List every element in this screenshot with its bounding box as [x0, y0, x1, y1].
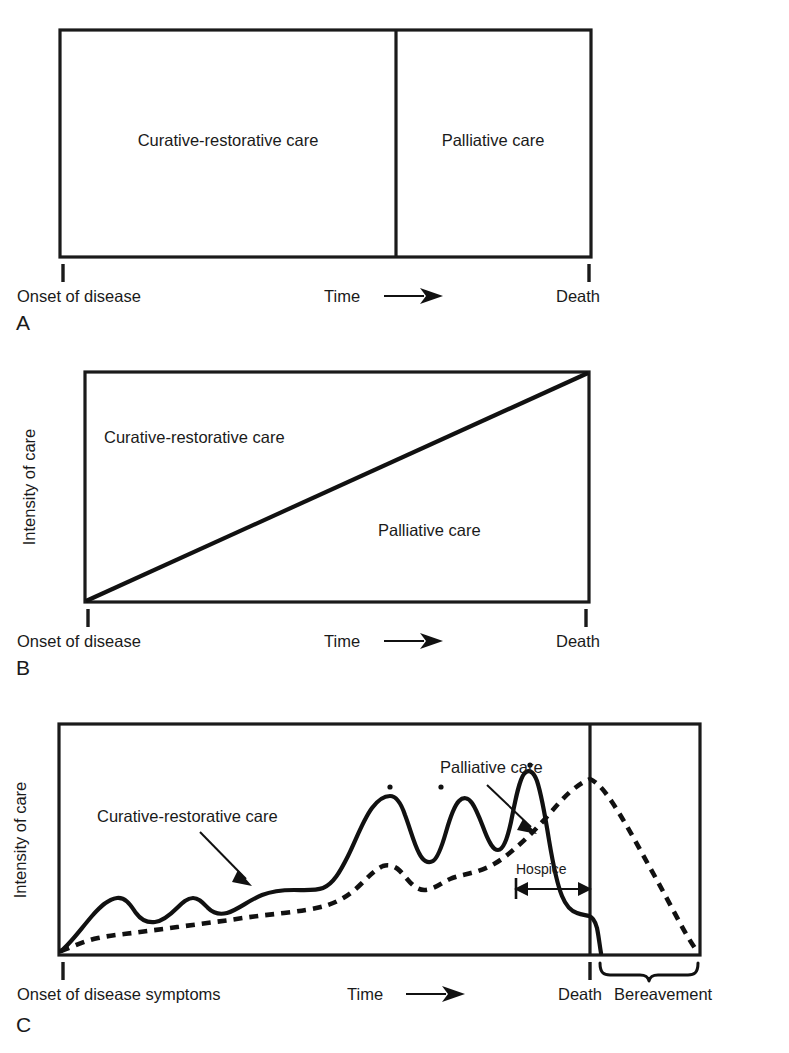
panel-a-letter: A: [16, 311, 30, 334]
panel-b-diagonal-divider: [86, 373, 588, 601]
panel-c-y-axis-label: Intensity of care: [11, 782, 29, 898]
panel-a-axis-end-label: Death: [556, 287, 600, 305]
models-of-care-figure: Curative-restorative care Palliative car…: [0, 0, 789, 1053]
panel-c-palliative-curve: [61, 779, 697, 951]
panel-b: Curative-restorative care Palliative car…: [16, 372, 600, 679]
panel-c-axis-end-label: Death: [558, 985, 602, 1003]
panel-c-asterisk-marker-icon-2: [438, 784, 443, 789]
panel-c-letter: C: [16, 1013, 31, 1036]
panel-b-right-arrow-icon: [384, 633, 443, 649]
panel-c-right-arrow-icon: [406, 986, 465, 1002]
panel-c-axis-start-label: Onset of disease symptoms: [17, 985, 221, 1003]
panel-c-curly-brace-icon: [600, 963, 698, 981]
panel-b-palliative-label: Palliative care: [378, 521, 481, 539]
panel-a-palliative-label: Palliative care: [442, 131, 545, 149]
panel-c-curative-pointer-arrow-icon: [200, 832, 252, 886]
panel-a-curative-label: Curative-restorative care: [138, 131, 319, 149]
panel-a-axis-time-label: Time: [324, 287, 360, 305]
panel-c-asterisk-marker-icon-1: [387, 784, 392, 789]
panel-c-hospice-label: Hospice: [516, 861, 567, 877]
panel-b-curative-label: Curative-restorative care: [104, 428, 285, 446]
panel-c-double-headed-arrow-icon: [514, 878, 592, 899]
panel-a: Curative-restorative care Palliative car…: [16, 30, 600, 334]
panel-b-letter: B: [16, 656, 30, 679]
panel-c-curative-callout-label: Curative-restorative care: [97, 807, 278, 825]
panel-c-bereavement-label: Bereavement: [614, 985, 713, 1003]
panel-c-axis-time-label: Time: [347, 985, 383, 1003]
panel-b-y-axis-label: Intensity of care: [20, 429, 38, 545]
panel-b-axis-time-label: Time: [324, 632, 360, 650]
panel-c-palliative-callout-label: Palliative care: [440, 758, 543, 776]
figure-root: Curative-restorative care Palliative car…: [0, 0, 789, 1053]
panel-a-axis-start-label: Onset of disease: [17, 287, 141, 305]
panel-a-right-arrow-icon: [384, 288, 443, 304]
panel-b-axis-start-label: Onset of disease: [17, 632, 141, 650]
panel-c: Curative-restorative care Palliative car…: [11, 724, 713, 1036]
panel-b-axis-end-label: Death: [556, 632, 600, 650]
